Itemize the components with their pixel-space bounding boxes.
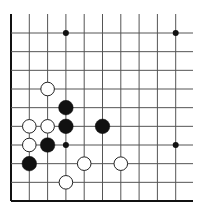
white-stone bbox=[23, 138, 37, 152]
white-stone bbox=[41, 82, 55, 96]
go-board bbox=[0, 0, 200, 209]
black-stone bbox=[59, 119, 74, 134]
star-point bbox=[63, 142, 69, 148]
white-stone bbox=[23, 120, 37, 134]
black-stone bbox=[22, 156, 37, 171]
board-grid bbox=[11, 14, 193, 201]
stones bbox=[22, 82, 128, 189]
white-stone bbox=[77, 157, 91, 171]
black-stone bbox=[59, 100, 74, 115]
white-stone bbox=[114, 157, 128, 171]
black-stone bbox=[95, 119, 110, 134]
star-point bbox=[173, 142, 179, 148]
star-point bbox=[173, 30, 179, 36]
black-stone bbox=[40, 138, 55, 153]
white-stone bbox=[41, 120, 55, 134]
white-stone bbox=[59, 176, 73, 190]
star-point bbox=[63, 30, 69, 36]
